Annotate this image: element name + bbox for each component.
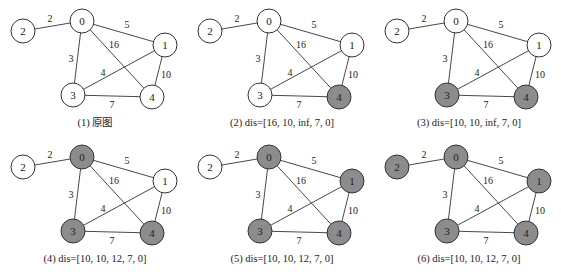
edge-weight-2-0: 2: [235, 149, 240, 160]
edge-0-1: [456, 21, 539, 45]
panel-caption-3: (3) dis=[10, 10, inf, 7, 0]: [417, 117, 521, 129]
edge-weight-1-4: 10: [348, 69, 358, 80]
node-label-3: 3: [70, 225, 76, 237]
panel-3: 25163410701234(3) dis=[10, 10, inf, 7, 0…: [385, 9, 551, 129]
node-label-4: 4: [336, 91, 342, 103]
node-label-1: 1: [349, 39, 355, 51]
edge-weight-2-0: 2: [422, 149, 427, 160]
panel-1: 25163410701234(1) 原图: [11, 9, 177, 129]
edge-weight-0-4: 16: [483, 175, 493, 186]
edge-weight-2-0: 2: [422, 13, 427, 24]
panel-caption-6: (6) dis=[10, 10, 12, 7, 0]: [417, 253, 520, 265]
node-label-4: 4: [149, 91, 155, 103]
panel-caption-4: (4) dis=[10, 10, 12, 7, 0]: [43, 253, 146, 265]
edge-0-4: [269, 157, 339, 233]
node-label-0: 0: [266, 151, 272, 163]
node-label-0: 0: [79, 151, 85, 163]
node-label-2: 2: [207, 161, 213, 173]
edge-0-1: [269, 21, 352, 45]
edge-weight-1-3: 4: [101, 67, 106, 78]
edge-weight-1-3: 4: [475, 203, 480, 214]
node-label-4: 4: [336, 227, 342, 239]
edge-0-4: [456, 21, 526, 97]
edge-weight-1-3: 4: [475, 67, 480, 78]
node-label-4: 4: [149, 227, 155, 239]
edge-weight-0-4: 16: [483, 39, 493, 50]
panel-4: 25163410701234(4) dis=[10, 10, 12, 7, 0]: [11, 145, 177, 265]
edge-weight-1-3: 4: [101, 203, 106, 214]
panel-caption-5: (5) dis=[10, 10, 12, 7, 0]: [230, 253, 333, 265]
node-label-1: 1: [536, 39, 542, 51]
edge-weight-0-4: 16: [296, 39, 306, 50]
edge-weight-0-1: 5: [499, 19, 504, 30]
edge-weight-1-4: 10: [535, 69, 545, 80]
panel-5: 25163410701234(5) dis=[10, 10, 12, 7, 0]: [198, 145, 364, 265]
edge-weight-3-4: 7: [484, 235, 489, 246]
edge-weight-2-0: 2: [235, 13, 240, 24]
edge-0-1: [82, 157, 165, 181]
edge-weight-3-4: 7: [297, 99, 302, 110]
edge-weight-0-4: 16: [109, 39, 119, 50]
edge-0-1: [269, 157, 352, 181]
node-label-3: 3: [444, 225, 450, 237]
edge-weight-0-3: 3: [69, 189, 74, 200]
node-label-3: 3: [444, 89, 450, 101]
node-label-1: 1: [349, 175, 355, 187]
edge-weight-0-3: 3: [69, 53, 74, 64]
edge-0-4: [456, 157, 526, 233]
edge-weight-0-4: 16: [296, 175, 306, 186]
edge-0-4: [82, 157, 152, 233]
node-label-0: 0: [453, 151, 459, 163]
node-label-4: 4: [523, 227, 529, 239]
edge-weight-2-0: 2: [48, 149, 53, 160]
node-label-4: 4: [523, 91, 529, 103]
edge-weight-3-4: 7: [110, 99, 115, 110]
edge-weight-2-0: 2: [48, 13, 53, 24]
edge-weight-3-4: 7: [110, 235, 115, 246]
panel-caption-2: (2) dis=[16, 10, inf, 7, 0]: [230, 117, 334, 129]
edge-0-1: [456, 157, 539, 181]
edge-weight-1-4: 10: [161, 205, 171, 216]
edge-0-4: [269, 21, 339, 97]
edge-weight-0-3: 3: [443, 189, 448, 200]
panel-2: 25163410701234(2) dis=[16, 10, inf, 7, 0…: [198, 9, 364, 129]
edge-weight-0-3: 3: [256, 53, 261, 64]
edge-weight-0-1: 5: [499, 155, 504, 166]
node-label-2: 2: [394, 25, 400, 37]
edge-weight-1-4: 10: [161, 69, 171, 80]
edge-weight-1-4: 10: [535, 205, 545, 216]
edge-weight-0-4: 16: [109, 175, 119, 186]
node-label-3: 3: [70, 89, 76, 101]
edge-weight-3-4: 7: [484, 99, 489, 110]
edge-weight-0-3: 3: [256, 189, 261, 200]
node-label-2: 2: [20, 161, 26, 173]
node-label-0: 0: [453, 15, 459, 27]
edge-weight-3-4: 7: [297, 235, 302, 246]
node-label-2: 2: [394, 161, 400, 173]
panel-6: 25163410701234(6) dis=[10, 10, 12, 7, 0]: [385, 145, 551, 265]
edge-weight-0-1: 5: [312, 19, 317, 30]
node-label-1: 1: [162, 39, 168, 51]
node-label-2: 2: [20, 25, 26, 37]
edge-weight-0-1: 5: [125, 19, 130, 30]
node-label-2: 2: [207, 25, 213, 37]
edge-weight-1-4: 10: [348, 205, 358, 216]
node-label-1: 1: [536, 175, 542, 187]
edge-weight-1-3: 4: [288, 67, 293, 78]
edge-weight-0-3: 3: [443, 53, 448, 64]
edge-0-1: [82, 21, 165, 45]
panel-caption-1: (1) 原图: [78, 117, 113, 129]
node-label-3: 3: [257, 225, 263, 237]
node-label-0: 0: [266, 15, 272, 27]
node-label-1: 1: [162, 175, 168, 187]
node-label-0: 0: [79, 15, 85, 27]
edge-0-4: [82, 21, 152, 97]
dijkstra-steps-figure: 25163410701234(1) 原图25163410701234(2) di…: [0, 0, 561, 272]
edge-weight-0-1: 5: [125, 155, 130, 166]
node-label-3: 3: [257, 89, 263, 101]
edge-weight-0-1: 5: [312, 155, 317, 166]
edge-weight-1-3: 4: [288, 203, 293, 214]
